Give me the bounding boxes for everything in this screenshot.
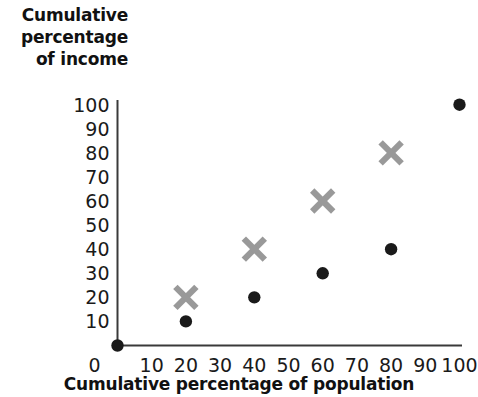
data-point-circle <box>453 99 465 111</box>
data-point-circle <box>111 339 123 351</box>
chart-container: Cumulative percentage of income 10203040… <box>0 0 478 397</box>
data-point-cross <box>381 142 402 163</box>
plot-area <box>0 0 478 397</box>
x-axis-title: Cumulative percentage of population <box>0 374 478 394</box>
axis-lines <box>118 100 463 346</box>
data-markers <box>111 99 465 352</box>
data-point-cross <box>244 239 265 260</box>
data-point-circle <box>248 291 260 303</box>
data-point-circle <box>180 315 192 327</box>
data-point-circle <box>385 243 397 255</box>
data-point-cross <box>175 287 196 308</box>
data-point-circle <box>317 267 329 279</box>
data-point-cross <box>312 191 333 212</box>
